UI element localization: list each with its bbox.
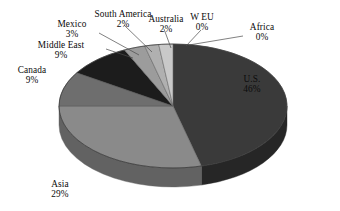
pie-label-canada: Canada 9% [6,65,58,86]
pie-label-w-eu-value: 0% [181,22,223,32]
leader-line-africa [189,36,243,45]
pie-label-mexico-value: 3% [46,29,98,39]
pie-label-w-eu-name: W EU [181,12,223,22]
pie-label-africa-name: Africa [239,22,285,32]
pie-label-us-value: 46% [228,84,276,94]
pie-label-us-name: U.S. [228,74,276,84]
pie-label-us: U.S. 46% [228,74,276,95]
pie-label-africa: Africa 0% [239,22,285,43]
pie-chart: U.S. 46% Asia 29% Canada 9% Middle East … [0,0,340,211]
pie-label-middle-east-name: Middle East [23,40,99,50]
pie-label-middle-east: Middle East 9% [23,40,99,61]
pie-label-canada-value: 9% [6,75,58,85]
pie-label-asia: Asia 29% [36,179,84,200]
pie-label-middle-east-value: 9% [23,50,99,60]
pie-top-face [59,44,287,168]
pie-label-canada-name: Canada [6,65,58,75]
pie-label-asia-name: Asia [36,179,84,189]
pie-label-africa-value: 0% [239,32,285,42]
pie-label-asia-value: 29% [36,189,84,199]
pie-label-w-eu: W EU 0% [181,12,223,33]
